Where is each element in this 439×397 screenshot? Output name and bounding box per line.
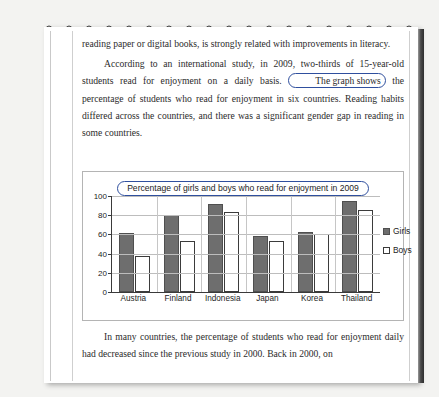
bar-japan-boys — [269, 241, 284, 292]
y-axis-tick-mark-20 — [108, 273, 112, 274]
y-axis-tick-mark-0 — [108, 292, 112, 293]
category-separator-1 — [157, 196, 158, 292]
chart-title: Percentage of girls and boys who read fo… — [117, 181, 369, 196]
bar-korea-boys — [314, 234, 329, 292]
x-axis-label-austria: Austria — [111, 294, 156, 303]
page-sheet: reading paper or digital books, is stron… — [44, 27, 418, 383]
y-axis-tick-mark-80 — [108, 215, 112, 216]
y-axis-tick-60: 60 — [98, 230, 107, 239]
x-axis-label-finland: Finland — [156, 294, 201, 303]
legend-label-boys: Boys — [393, 245, 412, 255]
y-axis-tick-mark-100 — [108, 196, 112, 197]
paragraph-2: According to an international study, in … — [82, 55, 404, 141]
bar-austria-girls — [119, 233, 134, 292]
y-axis-tick-mark-40 — [108, 254, 112, 255]
y-axis-tick-0: 0 — [103, 288, 107, 297]
chart-legend: GirlsBoys — [383, 226, 429, 264]
y-axis-tick-mark-60 — [108, 234, 112, 235]
bar-group-finland — [157, 196, 202, 292]
chart-title-container: Percentage of girls and boys who read fo… — [83, 177, 403, 196]
y-axis-tick-80: 80 — [98, 211, 107, 220]
margin-rule-right — [409, 31, 410, 381]
x-axis-label-korea: Korea — [290, 294, 335, 303]
chart-figure: Percentage of girls and boys who read fo… — [82, 171, 404, 321]
bar-group-indonesia — [201, 196, 246, 292]
bar-thailand-boys — [358, 210, 373, 292]
bar-indonesia-boys — [224, 212, 239, 292]
bar-japan-girls — [253, 236, 268, 292]
chart-plot-area: 020406080100 AustriaFinlandIndonesiaJapa… — [83, 196, 405, 320]
bar-korea-girls — [298, 232, 313, 292]
bar-group-korea — [291, 196, 336, 292]
y-axis-tick-40: 40 — [98, 249, 107, 258]
bar-group-austria — [112, 196, 157, 292]
x-axis-label-thailand: Thailand — [334, 294, 379, 303]
legend-swatch-girls — [383, 228, 390, 235]
category-separator-4 — [291, 196, 292, 292]
x-axis-tick-labels: AustriaFinlandIndonesiaJapanKoreaThailan… — [111, 294, 379, 303]
bar-indonesia-girls — [208, 204, 223, 292]
y-axis-tick-labels: 020406080100 — [83, 196, 109, 292]
category-separator-3 — [246, 196, 247, 292]
y-axis-tick-100: 100 — [94, 192, 107, 201]
legend-item-girls: Girls — [383, 226, 429, 236]
legend-label-girls: Girls — [393, 226, 410, 236]
text-column-after-figure: In many countries, the percentage of stu… — [82, 328, 404, 362]
margin-rule-outer — [50, 31, 51, 381]
text-column: reading paper or digital books, is stron… — [82, 35, 404, 141]
paragraph-1: reading paper or digital books, is stron… — [82, 35, 404, 52]
margin-rule-inner — [72, 31, 73, 381]
y-axis-tick-20: 20 — [98, 268, 107, 277]
category-separator-2 — [201, 196, 202, 292]
chart-plot — [111, 196, 380, 293]
legend-swatch-boys — [383, 247, 390, 254]
paragraph-3: In many countries, the percentage of stu… — [82, 328, 404, 362]
book-binding-shadow — [418, 29, 424, 383]
scanned-page-view: reading paper or digital books, is stron… — [0, 0, 439, 397]
bar-group-japan — [246, 196, 291, 292]
category-separator-5 — [335, 196, 336, 292]
bar-group-thailand — [335, 196, 380, 292]
bar-finland-boys — [180, 241, 195, 292]
x-axis-label-japan: Japan — [245, 294, 290, 303]
highlighted-phrase: The graph shows — [288, 73, 386, 88]
x-axis-label-indonesia: Indonesia — [200, 294, 245, 303]
legend-item-boys: Boys — [383, 245, 429, 255]
